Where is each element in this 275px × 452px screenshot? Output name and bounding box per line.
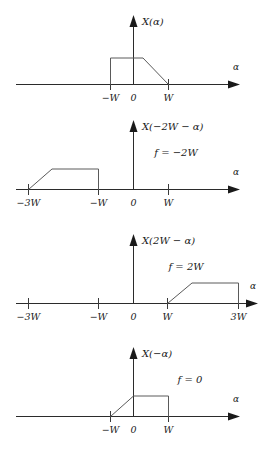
tick-label-pos-w: W [163,311,174,322]
signal-curve [29,169,99,190]
figure-container: X(α) α −W 0 W X(−2W − α) f = −2W [0,0,275,452]
f-value-label: f = 0 [177,374,203,385]
x-axis-arrowhead [228,81,240,89]
tick-label-zero: 0 [130,92,136,103]
signal-curve [111,58,169,85]
x-axis-label: α [233,62,239,72]
panel-3-plot: X(2W − α) f = 2W α −3W −W 0 W 3W [0,224,275,329]
signal-curve [168,283,239,304]
y-axis-arrowhead [130,120,138,132]
x-axis-arrowhead [228,186,240,194]
tick-label-neg-w: −W [102,424,121,435]
panel-1-plot: X(α) α −W 0 W [0,0,275,105]
y-axis-arrowhead [130,15,138,27]
panel-4-plot: X(−α) f = 0 α −W 0 W [0,337,275,447]
function-label: X(2W − α) [141,235,195,246]
function-label: X(−2W − α) [141,121,204,132]
tick-label-zero: 0 [130,197,136,208]
tick-label-neg-3w: −3W [17,311,42,322]
function-label: X(α) [141,16,164,27]
function-label: X(−α) [141,348,172,359]
x-axis-label: α [233,394,239,404]
panel-1: X(α) α −W 0 W [0,0,275,105]
tick-label-pos-w: W [164,197,175,208]
panel-3: X(2W − α) f = 2W α −3W −W 0 W 3W [0,224,275,329]
f-value-label: f = 2W [167,261,204,272]
panel-2-plot: X(−2W − α) f = −2W α −3W −W 0 W [0,110,275,215]
tick-label-neg-w: −W [102,92,121,103]
panel-4: X(−α) f = 0 α −W 0 W [0,337,275,447]
f-value-label: f = −2W [153,147,198,158]
signal-curve [111,396,169,417]
tick-label-neg-w: −W [90,311,109,322]
tick-label-neg-w: −W [90,197,109,208]
panel-2: X(−2W − α) f = −2W α −3W −W 0 W [0,110,275,215]
tick-label-zero: 0 [130,424,136,435]
tick-label-zero: 0 [130,311,136,322]
x-axis-arrowhead [246,300,258,308]
x-axis-label: α [233,167,239,177]
y-axis-arrowhead [130,347,138,359]
y-axis-arrowhead [130,234,138,246]
tick-label-pos-w: W [164,424,175,435]
tick-label-neg-3w: −3W [17,197,42,208]
x-axis-arrowhead [228,413,240,421]
tick-label-pos-3w: 3W [231,311,248,322]
tick-label-pos-w: W [164,92,175,103]
x-axis-label: α [250,281,256,291]
